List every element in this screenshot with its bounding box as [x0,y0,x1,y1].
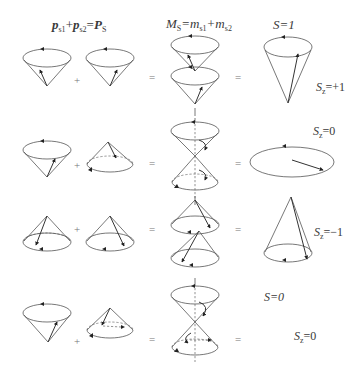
cone-down-spin-row2 [87,142,133,172]
cone-down-spin-1-row3 [23,216,71,251]
cone-up-spin-1-row1 [23,47,71,86]
stacked-cones-row1 [171,34,219,116]
result-cone-sz-plus-1 [264,35,312,103]
stacked-cones-row3 [171,196,219,267]
cone-up-spin-row4 [23,302,71,342]
cone-up-spin-row2 [23,139,71,177]
cone-down-spin-row4 [87,308,133,338]
cone-up-spin-2-row1 [86,47,134,86]
hourglass-cones-row2 [171,118,219,200]
result-cone-sz-minus-1 [264,197,312,262]
flat-result-ellipse-sz-zero [250,144,334,177]
spin-cone-diagram [0,0,363,377]
cone-down-spin-2-row3 [86,216,134,251]
hourglass-cones-row4 [171,278,219,362]
